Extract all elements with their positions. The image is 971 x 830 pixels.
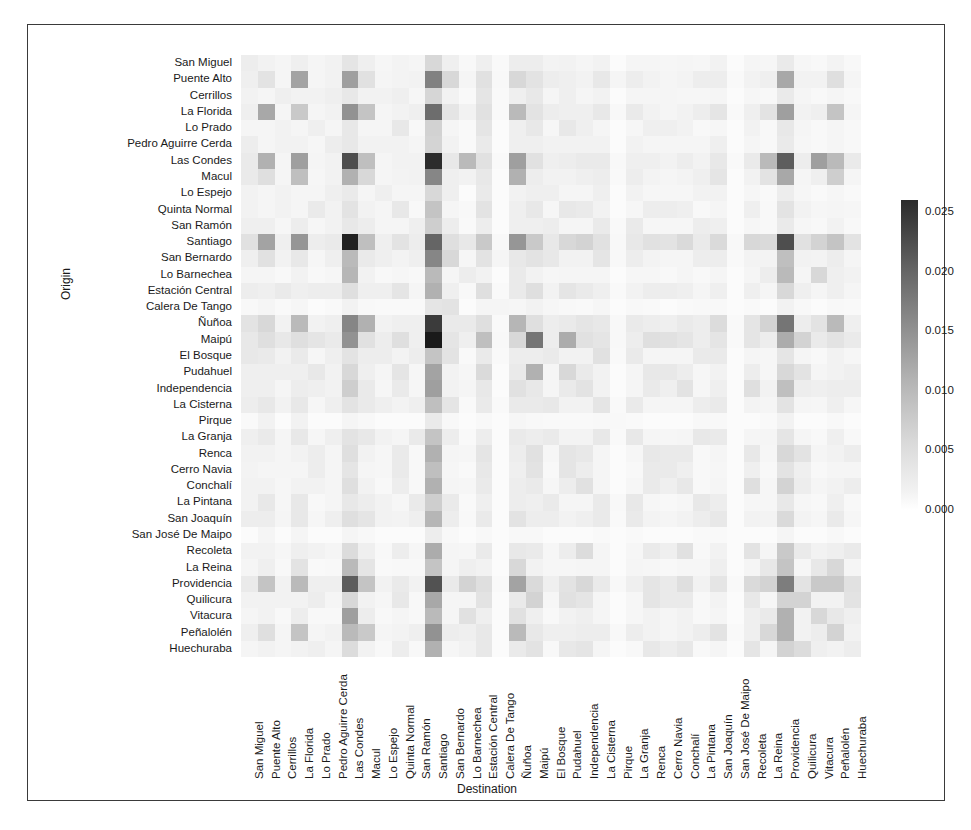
colorbar-tick-label: 0.010	[925, 385, 954, 397]
heatmap-cell	[543, 136, 560, 152]
heatmap-cell	[593, 364, 610, 380]
heatmap-cell	[576, 104, 593, 120]
heatmap-cell	[409, 218, 426, 234]
heatmap-cell	[392, 104, 409, 120]
heatmap-cell	[744, 153, 761, 169]
heatmap-cell	[693, 332, 710, 348]
heatmap-cell	[727, 445, 744, 461]
heatmap-cell	[526, 478, 543, 494]
heatmap-cell	[844, 315, 861, 331]
heatmap-cell	[492, 201, 509, 217]
heatmap-cell	[526, 104, 543, 120]
heatmap-cell	[241, 641, 258, 657]
heatmap-cell	[593, 348, 610, 364]
heatmap-plot-area[interactable]	[241, 55, 861, 657]
heatmap-cell	[760, 641, 777, 657]
heatmap-cell	[459, 55, 476, 71]
heatmap-cell	[358, 71, 375, 87]
heatmap-cell	[476, 169, 493, 185]
heatmap-cell	[325, 348, 342, 364]
heatmap-cell	[760, 576, 777, 592]
heatmap-cell	[811, 511, 828, 527]
heatmap-cell	[241, 608, 258, 624]
heatmap-cell	[626, 55, 643, 71]
y-tick-label: Lo Barnechea	[160, 269, 232, 281]
x-tick-label: Pirque	[623, 746, 635, 779]
heatmap-cell	[459, 478, 476, 494]
heatmap-cell	[744, 559, 761, 575]
heatmap-cell	[492, 218, 509, 234]
heatmap-cell	[660, 169, 677, 185]
heatmap-cell	[308, 201, 325, 217]
heatmap-cell	[677, 88, 694, 104]
heatmap-cell	[492, 250, 509, 266]
heatmap-cell	[258, 559, 275, 575]
x-tick-label: Ñuñoa	[522, 745, 534, 779]
figure-panel: Origin San MiguelPuente AltoCerrillosLa …	[27, 24, 945, 801]
heatmap-cell	[526, 267, 543, 283]
heatmap-cell	[610, 315, 627, 331]
heatmap-cell	[442, 527, 459, 543]
heatmap-cell	[459, 511, 476, 527]
heatmap-cell	[844, 169, 861, 185]
heatmap-cell	[375, 559, 392, 575]
heatmap-cell	[760, 332, 777, 348]
heatmap-cell	[275, 478, 292, 494]
heatmap-cell	[794, 185, 811, 201]
heatmap-cell	[710, 413, 727, 429]
heatmap-cell	[626, 641, 643, 657]
heatmap-cell	[476, 185, 493, 201]
heatmap-cell	[794, 494, 811, 510]
x-tick-label: La Granja	[639, 728, 651, 779]
heatmap-cell	[593, 559, 610, 575]
heatmap-cell	[459, 201, 476, 217]
heatmap-cell	[693, 299, 710, 315]
heatmap-cell	[442, 250, 459, 266]
heatmap-cell	[777, 592, 794, 608]
heatmap-cell	[811, 169, 828, 185]
heatmap-cell	[811, 348, 828, 364]
heatmap-cell	[710, 315, 727, 331]
heatmap-cell	[241, 380, 258, 396]
heatmap-cell	[610, 348, 627, 364]
heatmap-cell	[325, 511, 342, 527]
heatmap-cell	[543, 592, 560, 608]
heatmap-cell	[794, 413, 811, 429]
heatmap-cell	[425, 429, 442, 445]
heatmap-cell	[476, 71, 493, 87]
y-tick-label: Maipú	[201, 334, 232, 346]
heatmap-cell	[626, 185, 643, 201]
heatmap-cell	[593, 71, 610, 87]
heatmap-cell	[241, 511, 258, 527]
heatmap-cell	[543, 55, 560, 71]
heatmap-cell	[760, 201, 777, 217]
heatmap-cell	[526, 641, 543, 657]
heatmap-cell	[509, 413, 526, 429]
heatmap-cell	[275, 559, 292, 575]
heatmap-cell	[593, 413, 610, 429]
heatmap-cell	[241, 136, 258, 152]
heatmap-cell	[744, 55, 761, 71]
heatmap-cell	[543, 462, 560, 478]
heatmap-cell	[727, 624, 744, 640]
heatmap-cell	[576, 250, 593, 266]
heatmap-cell	[710, 201, 727, 217]
heatmap-cell	[693, 55, 710, 71]
heatmap-cell	[559, 283, 576, 299]
heatmap-cell	[794, 397, 811, 413]
heatmap-cell	[777, 348, 794, 364]
heatmap-cell	[526, 576, 543, 592]
heatmap-cell	[342, 380, 359, 396]
heatmap-cell	[342, 413, 359, 429]
heatmap-cell	[794, 462, 811, 478]
heatmap-cell	[275, 267, 292, 283]
heatmap-cell	[375, 364, 392, 380]
heatmap-cell	[308, 462, 325, 478]
heatmap-cell	[727, 332, 744, 348]
heatmap-cell	[308, 527, 325, 543]
heatmap-cell	[794, 332, 811, 348]
heatmap-cell	[643, 136, 660, 152]
x-tick-label: La Pintana	[706, 724, 718, 779]
heatmap-cell	[442, 185, 459, 201]
heatmap-cell	[509, 380, 526, 396]
